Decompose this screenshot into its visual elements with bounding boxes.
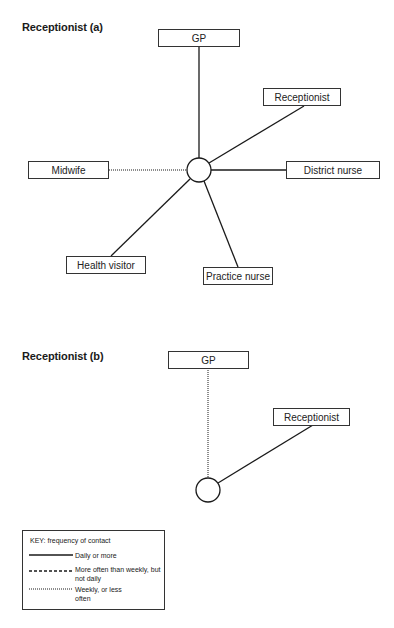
edge-health-visitor-a — [111, 179, 190, 256]
center-node-b — [196, 478, 220, 502]
legend-title: KEY: frequency of contact — [30, 537, 111, 544]
edge-receptionist-b — [218, 425, 313, 483]
edge-practice-nurse-a — [204, 181, 238, 267]
node-gp-a: GP — [158, 29, 240, 47]
node-gp-b: GP — [168, 351, 249, 369]
legend-label-daily: Daily or more — [75, 552, 117, 561]
node-district-nurse-a: District nurse — [286, 161, 380, 179]
edge-receptionist-a — [209, 106, 304, 163]
diagram-b-title: Receptionist (b) — [22, 350, 104, 362]
diagram-a-title: Receptionist (a) — [22, 21, 103, 33]
node-receptionist-b: Receptionist — [273, 408, 350, 426]
node-practice-nurse-a: Practice nurse — [203, 267, 273, 285]
legend-key: KEY: frequency of contact Daily or more … — [22, 530, 165, 610]
legend-label-weekly-or-less: Weekly, or less often — [75, 586, 130, 603]
node-receptionist-a: Receptionist — [263, 88, 341, 106]
center-node-a — [187, 158, 211, 182]
node-midwife-a: Midwife — [28, 161, 109, 179]
node-health-visitor-a: Health visitor — [66, 256, 146, 274]
legend-label-more-than-weekly: More often than weekly, but not daily — [75, 566, 163, 583]
